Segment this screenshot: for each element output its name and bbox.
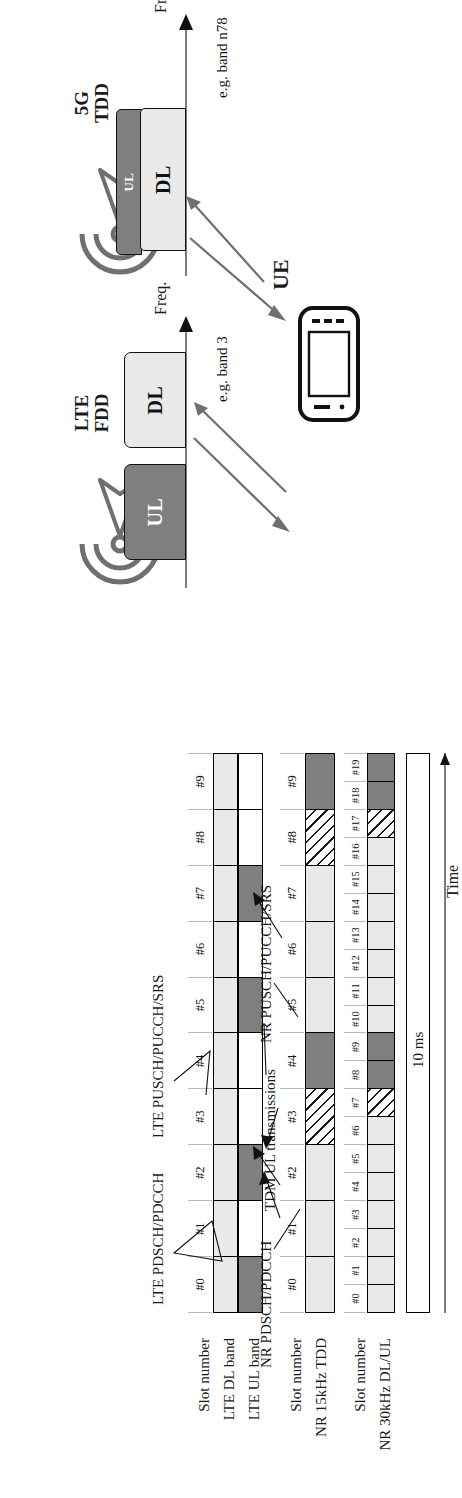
nr30-slot-number-strip: #0#1#2#3#4#5#6#7#8#9#10#11#12#13#14#15#1…: [344, 753, 366, 1313]
nr-tdd-caption: 5G TDD: [72, 58, 112, 148]
nr30-cell: [368, 893, 394, 921]
nr30-cell: [368, 949, 394, 977]
nr30-cell: [368, 1032, 394, 1060]
slot-number-cell: #17: [344, 809, 366, 837]
nr30-cell: [368, 865, 394, 893]
slot-number-cell: #14: [344, 893, 366, 921]
slot-number-cell: #7: [344, 1088, 366, 1116]
lte-fdd-ul-block: UL: [124, 464, 186, 560]
slot-number-cell: #3: [344, 1200, 366, 1228]
nr30-cell: [368, 781, 394, 809]
frame-duration-label: 10 ms: [410, 1032, 427, 1068]
nr30-cell: [368, 837, 394, 865]
slot-number-cell: #15: [344, 865, 366, 893]
nr30-cell: [368, 1005, 394, 1033]
nr30-cell: [368, 1200, 394, 1228]
slot-number-cell: #16: [344, 837, 366, 865]
time-axis-label: Time: [444, 865, 462, 898]
slot-number-cell: #2: [344, 1228, 366, 1256]
nr30-cell: [368, 1088, 394, 1116]
lte-fdd-dl-block: DL: [124, 352, 186, 448]
ue-label: UE: [268, 259, 294, 290]
row-label-lte-slot-number: Slot number: [196, 1338, 213, 1488]
nr30-cell: [368, 1256, 394, 1284]
lte-fdd-caption-line2: FDD: [92, 368, 112, 458]
row-label-lte-dl-band: LTE DL band: [221, 1338, 238, 1488]
row-label-nr15-slot-number: Slot number: [288, 1338, 305, 1488]
lte-fdd-caption: LTE FDD: [72, 368, 112, 458]
row-label-nr30-dlul: NR 30kHz DL/UL: [377, 1338, 394, 1488]
slot-number-cell: #12: [344, 949, 366, 977]
slot-number-cell: #1: [344, 1256, 366, 1284]
slot-number-cell: #9: [344, 1032, 366, 1060]
slot-number-cell: #0: [344, 1284, 366, 1313]
row-label-nr30-slot-number: Slot number: [352, 1338, 369, 1488]
nr30-cell: [368, 1228, 394, 1256]
nr30-cell: [368, 1172, 394, 1200]
nr-tdd-link-arrows: [186, 78, 326, 338]
slot-number-cell: #11: [344, 977, 366, 1005]
nr-tdd-caption-line1: 5G: [72, 58, 92, 148]
nr-tdd-caption-line2: TDD: [92, 58, 112, 148]
slot-number-cell: #8: [344, 1060, 366, 1088]
nr30-dlul-strip: [367, 753, 395, 1313]
slot-number-cell: #13: [344, 921, 366, 949]
nr30-cell: [368, 921, 394, 949]
slot-number-cell: #6: [344, 1116, 366, 1144]
nr30-cell: [368, 1060, 394, 1088]
mobile-phone-icon: [292, 300, 366, 424]
lte-fdd-caption-line1: LTE: [72, 368, 92, 458]
slot-number-cell: #4: [344, 1172, 366, 1200]
lte-to-nr-mapping-arrow-2: [238, 698, 286, 938]
lte-pdsch-leader-lines: [160, 713, 250, 1313]
nr30-cell: [368, 1284, 394, 1312]
slot-number-cell: #19: [344, 753, 366, 781]
nr30-cell: [368, 754, 394, 781]
time-axis-arrow: [436, 733, 462, 1313]
nr-tdd-ul-block: UL: [116, 109, 142, 255]
nr30-cell: [368, 977, 394, 1005]
slot-number-cell: #5: [344, 1144, 366, 1172]
row-label-nr15-tdd: NR 15kHz TDD: [313, 1338, 330, 1488]
nr30-cell: [368, 1116, 394, 1144]
slot-number-cell: #18: [344, 781, 366, 809]
nr30-cell: [368, 809, 394, 837]
nr-tdd-dl-block: DL: [140, 108, 186, 251]
nr30-cell: [368, 1144, 394, 1172]
slot-number-cell: #10: [344, 1005, 366, 1033]
lte-fdd-freq-label: Freq.: [152, 282, 170, 315]
nr-tdd-freq-label: Freq.: [152, 0, 170, 13]
